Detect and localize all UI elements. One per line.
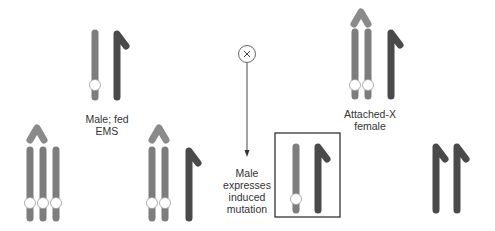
y-chromosome	[318, 147, 327, 210]
mutation-marker	[160, 198, 171, 209]
attachment-caret	[30, 128, 44, 140]
label-line: EMS	[72, 125, 142, 137]
male-fed-ems-chromosomes	[90, 33, 127, 97]
attached-x-female-chromosomes	[350, 12, 401, 96]
yy-progeny-chromosomes	[436, 147, 466, 210]
mutation-marker	[147, 198, 158, 209]
label-line: Male	[207, 167, 287, 179]
attached-x-female-progeny-chromosomes	[147, 128, 199, 218]
mutation-marker	[51, 198, 62, 209]
attachment-caret	[152, 128, 166, 140]
label-line: expresses	[207, 179, 287, 191]
mutation-marker	[363, 80, 374, 91]
y-chromosome	[117, 34, 126, 97]
attached-x-female-label: Attached-X female	[330, 108, 410, 132]
label-line: female	[330, 120, 410, 132]
label-line: Male; fed	[72, 113, 142, 125]
attachment-caret	[354, 12, 368, 24]
y-chromosome	[189, 151, 198, 218]
y-chromosome	[391, 33, 400, 96]
mutation-marker	[350, 80, 361, 91]
y-chromosome	[436, 147, 445, 210]
mutation-marker	[90, 80, 101, 91]
mutation-marker	[25, 198, 36, 209]
label-line: mutation	[207, 203, 287, 215]
label-line: Attached-X	[330, 108, 410, 120]
label-line: induced	[207, 191, 287, 203]
cross	[239, 46, 256, 158]
mutation-marker	[291, 194, 302, 205]
arrow-head-icon	[245, 150, 250, 157]
y-chromosome	[457, 147, 466, 210]
male-fed-ems-label: Male; fed EMS	[72, 113, 142, 137]
triple-x-progeny-chromosomes	[25, 128, 62, 218]
mutation-marker	[38, 198, 49, 209]
male-expresses-label: Male expresses induced mutation	[207, 167, 287, 215]
